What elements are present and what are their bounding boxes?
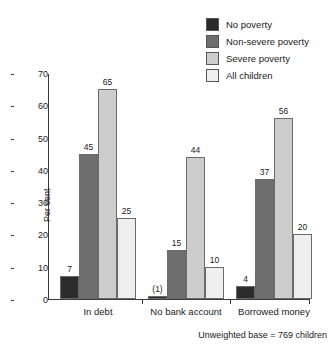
bar-slot: 20 [293, 73, 312, 299]
x-axis-end-tick [309, 300, 310, 304]
legend-swatch-severe-poverty [206, 52, 219, 65]
y-tick-label: 60 [14, 101, 48, 111]
bar-slot: (1) [148, 73, 167, 299]
y-tick-mark [11, 139, 15, 140]
bar-value-label: 25 [111, 206, 142, 216]
y-tick-mark [11, 268, 15, 269]
x-axis-separator-tick [142, 300, 143, 304]
bar-slot: 56 [274, 73, 293, 299]
bar[interactable] [255, 179, 274, 298]
y-tick-label: 70 [14, 69, 48, 79]
y-axis-line [48, 74, 49, 300]
legend-item-non-severe-poverty: Non-severe poverty [206, 35, 309, 48]
bar-group-bars: 7456525 [60, 73, 136, 299]
y-tick-label: 30 [14, 198, 48, 208]
bar-group: 7456525 [60, 73, 136, 299]
bar-slot: 45 [79, 73, 98, 299]
bar[interactable] [274, 118, 293, 299]
bar-slot: 44 [186, 73, 205, 299]
y-tick-label: 40 [14, 166, 48, 176]
x-axis-category-label: Borrowed money [236, 306, 312, 317]
bar[interactable] [167, 250, 186, 298]
bar-value-label: 10 [199, 255, 230, 265]
legend-label-non-severe-poverty: Non-severe poverty [226, 36, 309, 47]
legend-item-severe-poverty: Severe poverty [206, 52, 309, 65]
bar[interactable] [98, 89, 117, 299]
bar-chart: No poverty Non-severe poverty Severe pov… [0, 0, 335, 350]
plot-area: Per cent 010203040506070 7456525In debt(… [48, 74, 310, 300]
bar-slot: 65 [98, 73, 117, 299]
bar-slot: 10 [205, 73, 224, 299]
y-tick-mark [11, 235, 15, 236]
bar[interactable] [186, 157, 205, 299]
x-axis-separator-tick [230, 300, 231, 304]
y-tick-label: 20 [14, 230, 48, 240]
y-tick-label: 50 [14, 134, 48, 144]
x-axis-category-label: No bank account [148, 306, 224, 317]
bar[interactable] [236, 286, 255, 299]
y-tick-mark [11, 203, 15, 204]
bar-slot: 15 [167, 73, 186, 299]
bar-value-label: 20 [287, 222, 318, 232]
bar[interactable] [293, 234, 312, 299]
chart-footnote: Unweighted base = 769 children [198, 330, 327, 340]
bar[interactable] [79, 154, 98, 299]
bar-group: (1)154410 [148, 73, 224, 299]
y-tick-label: 10 [14, 263, 48, 273]
y-tick-mark [11, 300, 15, 301]
legend-label-no-poverty: No poverty [226, 19, 272, 30]
bar-slot: 4 [236, 73, 255, 299]
legend-swatch-non-severe-poverty [206, 35, 219, 48]
bar[interactable] [148, 296, 167, 299]
x-axis-line [48, 299, 310, 300]
bar[interactable] [205, 267, 224, 299]
x-axis-category-label: In debt [60, 306, 136, 317]
bar-slot: 7 [60, 73, 79, 299]
legend-label-severe-poverty: Severe poverty [226, 53, 290, 64]
bar[interactable] [117, 218, 136, 299]
y-tick-mark [11, 106, 15, 107]
y-tick-label: 0 [14, 295, 48, 305]
bar[interactable] [60, 276, 79, 299]
legend-item-no-poverty: No poverty [206, 18, 309, 31]
bar-group-bars: (1)154410 [148, 73, 224, 299]
legend-swatch-no-poverty [206, 18, 219, 31]
y-tick-mark [11, 171, 15, 172]
bar-group-bars: 4375620 [236, 73, 312, 299]
y-tick-mark [11, 74, 15, 75]
bar-group: 4375620 [236, 73, 312, 299]
bar-slot: 25 [117, 73, 136, 299]
